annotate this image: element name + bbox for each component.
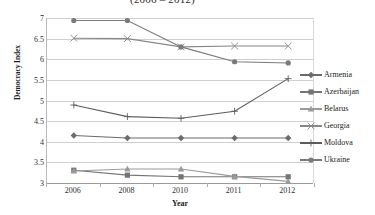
data-point-square — [125, 173, 130, 178]
y-tick-label: 3 — [18, 179, 44, 188]
x-axis-title: Year — [46, 199, 314, 208]
legend-label: Azerbaijan — [322, 87, 359, 96]
data-point-square — [308, 89, 313, 94]
x-tick-label: 2012 — [267, 186, 307, 195]
data-point-square — [178, 174, 183, 179]
democracy-index-line-chart: (2006 – 2012) Democracy Index 33.544.555… — [0, 0, 375, 215]
data-point-circle — [178, 44, 183, 49]
x-tick-label: 2010 — [160, 186, 200, 195]
data-point-plus — [231, 108, 238, 115]
y-tick-label: 7 — [18, 14, 44, 23]
data-point-cross-x — [308, 122, 315, 129]
data-point-plus — [178, 115, 185, 122]
chart-title: (2006 – 2012) — [30, 0, 295, 5]
data-point-circle — [308, 157, 313, 162]
data-point-diamond — [308, 71, 314, 77]
x-tick-label: 2006 — [53, 186, 93, 195]
legend-marker-plus-icon — [300, 138, 322, 148]
legend-marker-diamond-icon — [300, 70, 322, 80]
y-tick-label: 6 — [18, 55, 44, 64]
legend-item-georgia[interactable]: Georgia — [300, 117, 375, 134]
data-point-diamond — [124, 135, 130, 141]
data-point-diamond — [231, 135, 237, 141]
data-point-diamond — [71, 132, 77, 138]
legend: ArmeniaAzerbaijanBelarusGeorgiaMoldovaUk… — [300, 66, 375, 168]
x-tick-mark — [260, 183, 261, 187]
data-point-triangle — [308, 105, 314, 111]
data-point-plus — [308, 139, 315, 146]
series-line — [74, 20, 288, 62]
data-point-plus — [124, 113, 131, 120]
series-lines — [47, 18, 315, 183]
data-point-circle — [125, 18, 130, 23]
legend-label: Georgia — [322, 121, 350, 130]
y-tick-label: 6.5 — [18, 34, 44, 43]
legend-marker-square-icon — [300, 87, 322, 97]
x-tick-mark — [100, 183, 101, 187]
legend-marker-triangle-icon — [300, 104, 322, 114]
series-ukraine — [71, 18, 291, 66]
legend-label: Moldova — [322, 138, 353, 147]
y-tick-label: 4.5 — [18, 117, 44, 126]
data-point-plus — [285, 75, 292, 82]
x-tick-mark — [153, 183, 154, 187]
series-line — [74, 79, 288, 119]
legend-item-belarus[interactable]: Belarus — [300, 100, 375, 117]
data-point-diamond — [285, 135, 291, 141]
y-tick-label: 3.5 — [18, 158, 44, 167]
data-point-circle — [286, 60, 291, 65]
x-tick-mark — [46, 183, 47, 187]
data-point-circle — [71, 18, 76, 23]
x-tick-label: 2011 — [214, 186, 254, 195]
legend-marker-circle-icon — [300, 155, 322, 165]
y-tick-label: 4 — [18, 137, 44, 146]
data-point-plus — [70, 102, 77, 109]
legend-label: Armenia — [322, 70, 352, 79]
gridline — [47, 183, 313, 184]
data-point-circle — [232, 59, 237, 64]
x-tick-mark — [207, 183, 208, 187]
x-tick-label: 2008 — [106, 186, 146, 195]
series-armenia — [71, 132, 292, 141]
legend-item-ukraine[interactable]: Ukraine — [300, 151, 375, 168]
legend-item-armenia[interactable]: Armenia — [300, 66, 375, 83]
legend-label: Ukraine — [322, 155, 350, 164]
legend-item-azerbaijan[interactable]: Azerbaijan — [300, 83, 375, 100]
data-point-diamond — [178, 135, 184, 141]
legend-label: Belarus — [322, 104, 348, 113]
y-tick-label: 5.5 — [18, 75, 44, 84]
series-moldova — [70, 75, 291, 121]
legend-item-moldova[interactable]: Moldova — [300, 134, 375, 151]
plot-area — [46, 18, 314, 183]
x-tick-mark — [314, 183, 315, 187]
y-tick-label: 5 — [18, 96, 44, 105]
legend-marker-cross-x-icon — [300, 121, 322, 131]
